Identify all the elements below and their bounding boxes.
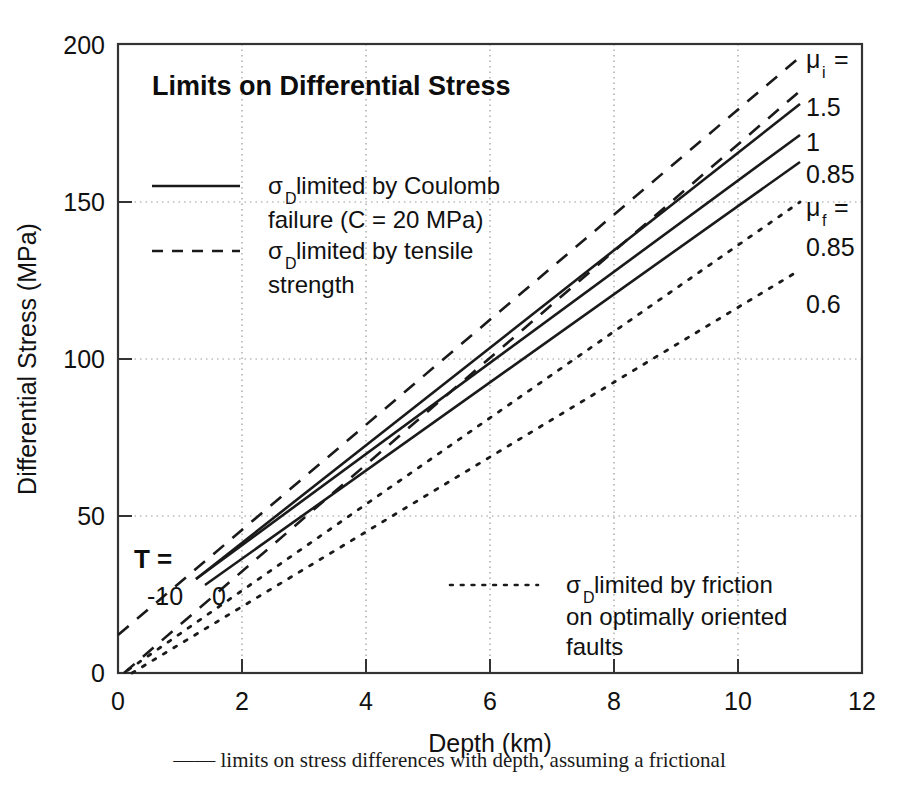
legend-line3-friction: faults [566, 633, 623, 660]
legend-sigma-sub-tensile: D [285, 255, 297, 272]
xtick-label-10: 10 [724, 687, 752, 715]
legend-line2-tensile: strength [268, 271, 355, 298]
xtick-label-4: 4 [359, 687, 373, 715]
ytick-label-0: 0 [91, 659, 105, 687]
y-axis-title: Differential Stress (MPa) [13, 223, 41, 495]
ytick-label-150: 150 [63, 188, 105, 216]
mu-f-subscript: f [822, 212, 827, 229]
annotation-T-equals: T = [134, 544, 172, 574]
legend-line1-coulomb: limited by Coulomb [296, 172, 500, 199]
legend-line1-friction: limited by friction [594, 571, 773, 598]
ytick-label-50: 50 [77, 502, 105, 530]
xtick-label-12: 12 [848, 687, 876, 715]
curve-label-0-6-friction: 0.6 [806, 290, 841, 318]
ytick-label-100: 100 [63, 345, 105, 373]
figure-caption: —— limits on stress differences with dep… [0, 748, 899, 773]
ytick-label-200: 200 [63, 31, 105, 59]
xtick-label-8: 8 [607, 687, 621, 715]
differential-stress-chart: 0 2 4 6 8 10 12 0 50 100 150 200 Depth (… [0, 0, 899, 797]
xtick-label-2: 2 [235, 687, 249, 715]
chart-title: Limits on Differential Stress [152, 71, 511, 101]
curve-label-0-85-friction: 0.85 [806, 233, 855, 261]
curve-label-1: 1 [806, 128, 820, 156]
curve-label-1-5: 1.5 [806, 93, 841, 121]
legend-sigma-coulomb: σ [268, 172, 283, 199]
mu-f-symbol: μ [806, 193, 820, 221]
legend-line2-coulomb: failure (C = 20 MPa) [268, 206, 483, 233]
xtick-label-0: 0 [111, 687, 125, 715]
figure-container: 0 2 4 6 8 10 12 0 50 100 150 200 Depth (… [0, 0, 899, 797]
legend-line1-tensile: limited by tensile [296, 237, 473, 264]
mu-f-equals: = [834, 193, 849, 221]
mu-i-symbol: μ [806, 45, 820, 73]
legend-line2-friction: on optimally oriented [566, 603, 787, 630]
mu-i-subscript: i [822, 64, 826, 81]
annotation-T-0: 0 [212, 582, 226, 610]
legend-sigma-tensile: σ [268, 237, 283, 264]
curve-label-0-85-coulomb: 0.85 [806, 160, 855, 188]
xtick-label-6: 6 [483, 687, 497, 715]
annotation-T-minus10: -10 [147, 582, 183, 610]
legend-sigma-friction: σ [566, 571, 581, 598]
legend-sigma-sub-coulomb: D [285, 190, 297, 207]
mu-i-equals: = [834, 45, 849, 73]
